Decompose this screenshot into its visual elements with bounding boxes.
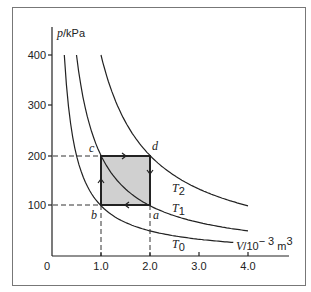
curve-label-t1: T1 [172, 201, 185, 217]
point-label-c: c [89, 141, 95, 155]
x-tick-3: 3.0 [191, 260, 206, 272]
point-label-d: d [152, 139, 159, 153]
curve-label-t0: T0 [172, 237, 185, 253]
point-label-a: a [153, 208, 159, 222]
cycle-area [101, 156, 150, 205]
x-tick-1: 1.0 [93, 260, 108, 272]
x-axis-title: V/10− 3 m3 [236, 235, 293, 253]
curve-label-t2: T2 [172, 181, 185, 197]
point-label-b: b [91, 208, 97, 222]
y-tick-200: 200 [28, 150, 46, 162]
axes [48, 27, 289, 256]
x-tick-2: 2.0 [142, 260, 157, 272]
y-tick-100: 100 [28, 199, 46, 211]
origin-label: 0 [44, 260, 50, 272]
y-tick-300: 300 [28, 99, 46, 111]
pv-diagram: 400 300 200 100 0 1.0 2.0 3.0 4.0 p/kPa … [0, 0, 311, 292]
y-tick-400: 400 [28, 49, 46, 61]
x-tick-4: 4.0 [240, 260, 255, 272]
y-axis-title: p/kPa [56, 26, 86, 40]
